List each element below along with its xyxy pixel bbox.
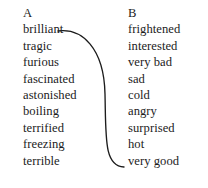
column-a-item-fascinated[interactable]: fascinated (23, 71, 118, 87)
column-b-item-frightened[interactable]: frightened (128, 21, 208, 37)
column-b-item-interested[interactable]: interested (128, 38, 208, 54)
column-b: B frightened interested very bad sad col… (128, 0, 208, 169)
matching-exercise: A brilliant tragic furious fascinated as… (0, 0, 208, 188)
column-b-item-sad[interactable]: sad (128, 71, 208, 87)
column-a-item-furious[interactable]: furious (23, 54, 118, 70)
column-b-item-very-bad[interactable]: very bad (128, 54, 208, 70)
column-a: A brilliant tragic furious fascinated as… (23, 0, 118, 169)
column-a-item-astonished[interactable]: astonished (23, 87, 118, 103)
column-a-item-brilliant[interactable]: brilliant (23, 21, 118, 37)
column-b-item-hot[interactable]: hot (128, 136, 208, 152)
column-a-item-tragic[interactable]: tragic (23, 38, 118, 54)
column-a-item-terrified[interactable]: terrified (23, 120, 118, 136)
column-a-heading: A (23, 5, 118, 21)
column-b-item-surprised[interactable]: surprised (128, 120, 208, 136)
column-b-item-cold[interactable]: cold (128, 87, 208, 103)
column-b-heading: B (128, 5, 208, 21)
column-b-item-angry[interactable]: angry (128, 103, 208, 119)
column-a-item-boiling[interactable]: boiling (23, 103, 118, 119)
column-a-item-freezing[interactable]: freezing (23, 136, 118, 152)
column-a-item-terrible[interactable]: terrible (23, 153, 118, 169)
column-b-item-very-good[interactable]: very good (128, 153, 208, 169)
